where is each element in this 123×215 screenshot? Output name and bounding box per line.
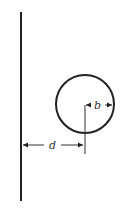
wall-cylinder-diagram: b d (0, 0, 123, 215)
radius-label: b (94, 99, 101, 112)
radius-dimension: b (86, 99, 112, 112)
distance-dimension: d (23, 139, 83, 152)
distance-label: d (49, 139, 56, 152)
